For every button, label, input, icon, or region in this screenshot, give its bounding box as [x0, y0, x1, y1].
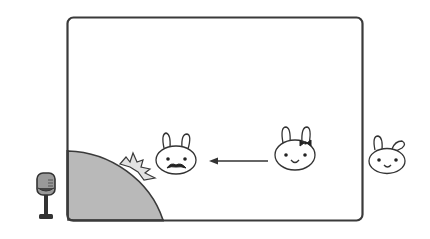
- scene-illustration: [0, 0, 430, 239]
- rabbit-outside: [369, 136, 405, 174]
- microphone-icon: [37, 173, 55, 219]
